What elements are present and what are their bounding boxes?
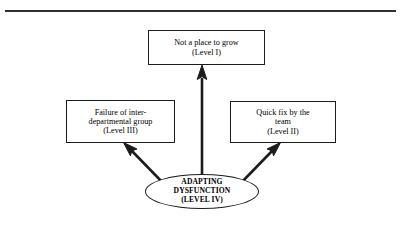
node-level3-text: Failure of inter- departmental group (Le…: [86, 108, 156, 136]
node-level3-line-3: (Level III): [89, 126, 153, 135]
node-level4-text: ADAPTING DYSFUNCTION (LEVEL IV): [171, 178, 234, 204]
node-level4-ellipse: ADAPTING DYSFUNCTION (LEVEL IV): [145, 174, 259, 209]
node-level1-line-2: (Level I): [174, 48, 239, 57]
arrow-up-to-level1: [197, 65, 207, 175]
node-level2-line-1: Quick fix by the: [256, 108, 309, 117]
node-level1-box: Not a place to grow (Level I): [148, 30, 265, 65]
node-level2-line-2: team: [256, 117, 309, 126]
node-level2-line-3: (Level II): [256, 127, 309, 136]
node-level2-box: Quick fix by the team (Level II): [230, 101, 336, 143]
node-level3-line-1: Failure of inter-: [89, 108, 153, 117]
node-level1-text: Not a place to grow (Level I): [171, 38, 242, 56]
node-level3-box: Failure of inter- departmental group (Le…: [66, 100, 175, 143]
node-level4-line-3: (LEVEL IV): [174, 196, 231, 205]
node-level3-line-2: departmental group: [89, 117, 153, 126]
node-level2-text: Quick fix by the team (Level II): [253, 108, 312, 136]
dysfunction-levels-diagram: Not a place to grow (Level I) Failure of…: [0, 0, 404, 233]
node-level1-line-1: Not a place to grow: [174, 38, 239, 47]
